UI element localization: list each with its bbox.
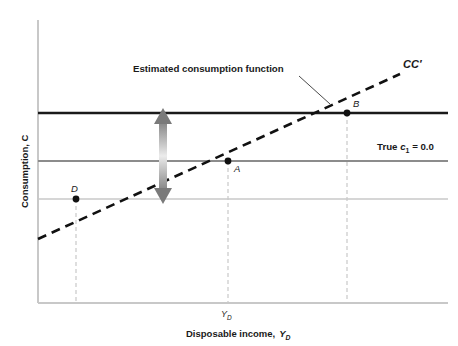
consumption-function-chart: Consumption, C Disposable income,YD YD E…	[0, 0, 458, 346]
point-d	[73, 196, 80, 203]
point-b	[344, 110, 351, 117]
annotation-estimated-consumption-function: Estimated consumption function	[133, 64, 284, 74]
y-axis-label: Consumption, C	[20, 135, 30, 208]
estimated-consumption-line	[38, 74, 400, 239]
vertical-gap-arrow	[154, 108, 172, 204]
annotation-cc-prime: CC′	[403, 59, 422, 70]
annotation-true-c1-suffix: = 0.0	[409, 141, 434, 152]
chart-plot-area	[0, 0, 458, 346]
point-label-d: D	[71, 184, 78, 194]
x-axis-label: Disposable income,YD	[186, 329, 291, 342]
point-a	[225, 158, 232, 165]
point-label-b: B	[353, 99, 359, 109]
point-label-a: A	[234, 164, 240, 174]
x-tick-subscript: D	[227, 314, 232, 321]
x-axis-label-text: Disposable income,	[186, 328, 275, 339]
x-tick-label-yd: YD	[221, 310, 232, 321]
x-axis-label-subscript: D	[286, 334, 291, 341]
annotation-true-c1-prefix: True	[377, 141, 400, 152]
annotation-leader-line	[299, 76, 330, 104]
annotation-true-c1: True c1 = 0.0	[377, 142, 434, 154]
